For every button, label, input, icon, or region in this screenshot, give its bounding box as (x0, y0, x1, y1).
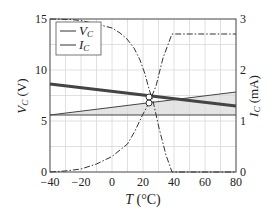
svg-text:2: 2 (240, 63, 246, 77)
operating-point-marker (146, 94, 152, 100)
svg-text:3: 3 (240, 12, 246, 26)
y-right-axis-label: IC (mA) (246, 75, 262, 118)
svg-text:−20: −20 (72, 175, 91, 189)
svg-text:80: 80 (230, 175, 242, 189)
svg-text:5: 5 (41, 114, 47, 128)
legend: VC IC (56, 22, 101, 55)
svg-text:20: 20 (137, 175, 149, 189)
svg-text:60: 60 (199, 175, 211, 189)
svg-text:−40: −40 (41, 175, 60, 189)
svg-text:15: 15 (35, 12, 47, 26)
svg-text:10: 10 (35, 63, 47, 77)
y-left-axis-label: VC (V) (14, 78, 30, 113)
x-ticks: −40 −20 0 20 40 60 80 (41, 175, 242, 189)
chart: VC IC 0 5 10 15 0 1 2 3 −40 −20 0 20 40 … (0, 0, 273, 214)
x-axis-label: T (°C) (125, 192, 161, 208)
operating-point-marker (146, 100, 152, 106)
y-left-ticks: 0 5 10 15 (35, 12, 47, 179)
svg-text:40: 40 (168, 175, 180, 189)
svg-text:0: 0 (109, 175, 115, 189)
